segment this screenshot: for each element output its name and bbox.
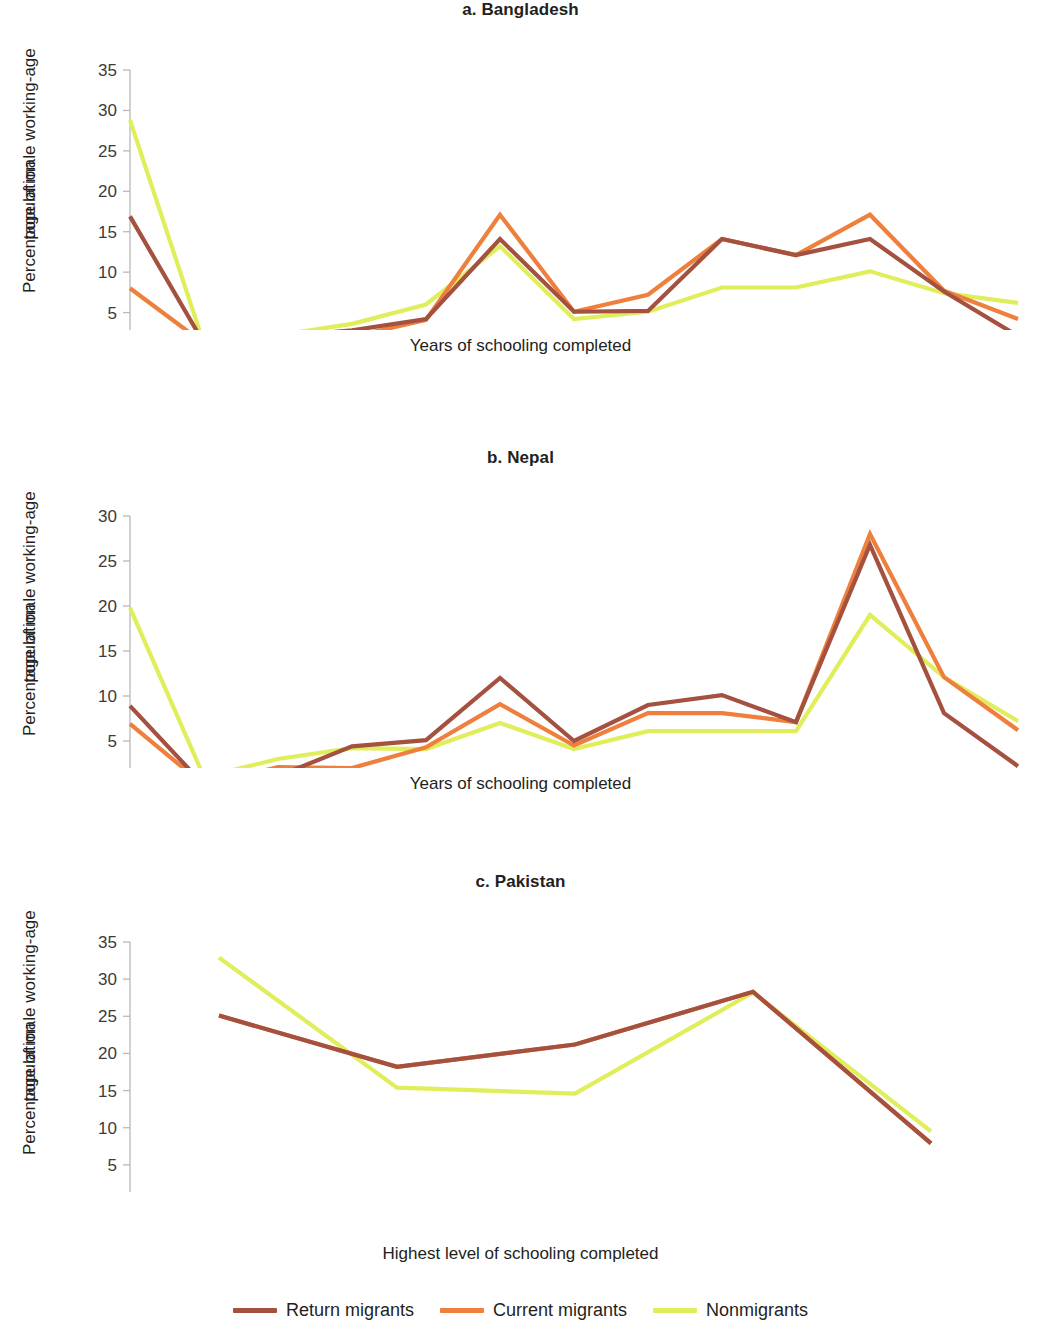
- legend-item-label: Nonmigrants: [706, 1300, 808, 1321]
- svg-text:10: 10: [98, 1119, 117, 1138]
- svg-text:5: 5: [108, 1156, 117, 1175]
- legend-item-label: Current migrants: [493, 1300, 627, 1321]
- svg-text:25: 25: [98, 142, 117, 161]
- plot-area-pakistan: Percentage of male working-age populatio…: [0, 892, 1041, 1192]
- legend-swatch-icon: [233, 1308, 277, 1313]
- svg-text:20: 20: [98, 1044, 117, 1063]
- svg-text:15: 15: [98, 1082, 117, 1101]
- chart-svg-pakistan: 05101520253035No educationPrimaryLowerse…: [0, 892, 1041, 1192]
- legend-item-label: Return migrants: [286, 1300, 414, 1321]
- series-line-nonmigrants: [130, 120, 1018, 330]
- series-line-return-migrants: [130, 545, 1018, 768]
- svg-text:30: 30: [98, 101, 117, 120]
- series-line-return-migrants: [130, 216, 1018, 330]
- series-line-current-migrants: [219, 992, 931, 1144]
- panel-nepal: b. Nepal Percentage of male working-age …: [0, 448, 1041, 794]
- svg-text:30: 30: [98, 970, 117, 989]
- svg-text:35: 35: [98, 61, 117, 80]
- panel-title-nepal: b. Nepal: [0, 448, 1041, 468]
- panel-pakistan: c. Pakistan Percentage of male working-a…: [0, 872, 1041, 1264]
- y-axis-label-bangladesh: Percentage of male working-age populatio…: [0, 20, 60, 330]
- y-axis-label-line2: population: [19, 91, 40, 311]
- legend-swatch-icon: [653, 1308, 697, 1313]
- x-axis-label-pakistan: Highest level of schooling completed: [0, 1244, 1041, 1264]
- series-line-return-migrants: [219, 992, 931, 1144]
- x-axis-label-nepal: Years of schooling completed: [0, 774, 1041, 794]
- x-axis-label-bangladesh: Years of schooling completed: [0, 336, 1041, 356]
- svg-text:20: 20: [98, 182, 117, 201]
- legend-item-current-migrants: Current migrants: [440, 1300, 627, 1321]
- plot-area-bangladesh: Percentage of male working-age populatio…: [0, 20, 1041, 330]
- svg-text:15: 15: [98, 642, 117, 661]
- chart-legend: Return migrantsCurrent migrantsNonmigran…: [0, 1300, 1041, 1321]
- panel-title-pakistan: c. Pakistan: [0, 872, 1041, 892]
- svg-text:5: 5: [108, 732, 117, 751]
- y-axis-label-nepal: Percentage of male working-age populatio…: [0, 468, 60, 768]
- svg-text:10: 10: [98, 687, 117, 706]
- svg-text:10: 10: [98, 263, 117, 282]
- panel-title-bangladesh: a. Bangladesh: [0, 0, 1041, 20]
- legend-swatch-icon: [440, 1308, 484, 1313]
- svg-text:25: 25: [98, 1007, 117, 1026]
- svg-text:15: 15: [98, 223, 117, 242]
- y-axis-label-pakistan: Percentage of male working-age populatio…: [0, 892, 60, 1192]
- panel-bangladesh: a. Bangladesh Percentage of male working…: [0, 0, 1041, 356]
- y-axis-label-line2: population: [19, 953, 40, 1173]
- svg-text:25: 25: [98, 552, 117, 571]
- svg-text:20: 20: [98, 597, 117, 616]
- svg-text:30: 30: [98, 507, 117, 526]
- legend-item-return-migrants: Return migrants: [233, 1300, 414, 1321]
- svg-text:35: 35: [98, 933, 117, 952]
- chart-svg-nepal: 0510152025300123456789101216+: [0, 468, 1041, 768]
- chart-svg-bangladesh: 051015202530350123456789101216+: [0, 20, 1041, 330]
- plot-area-nepal: Percentage of male working-age populatio…: [0, 468, 1041, 768]
- legend-item-nonmigrants: Nonmigrants: [653, 1300, 808, 1321]
- svg-text:5: 5: [108, 304, 117, 323]
- y-axis-label-line2: population: [19, 534, 40, 754]
- series-line-current-migrants: [130, 534, 1018, 768]
